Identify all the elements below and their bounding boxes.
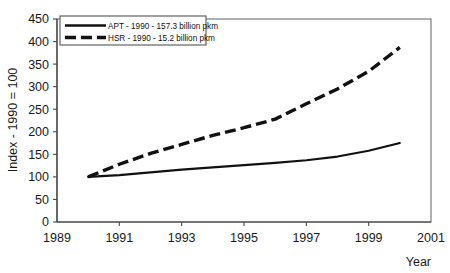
y-tick-label: 450	[28, 12, 49, 26]
y-tick-label: 200	[28, 125, 49, 139]
y-tick-label: 100	[28, 170, 49, 184]
x-tick-label: 1989	[43, 231, 71, 245]
legend-label-apt: APT - 1990 - 157.3 billion pkm	[108, 22, 218, 31]
y-tick-label: 400	[28, 35, 49, 49]
x-tick-label: 1993	[168, 231, 196, 245]
x-tick-label: 1995	[230, 231, 258, 245]
y-tick-label: 250	[28, 103, 49, 117]
legend: APT - 1990 - 157.3 billion pkm HSR - 199…	[60, 16, 218, 45]
chart-container: 050100150200250300350400450 198919911993…	[0, 0, 450, 273]
x-tick-label: 1999	[355, 231, 383, 245]
x-axis-title: Year	[406, 255, 431, 269]
y-tick-label: 150	[28, 148, 49, 162]
x-tick-label: 2001	[417, 231, 445, 245]
y-tick-label: 300	[28, 80, 49, 94]
x-tick-label: 1991	[105, 231, 133, 245]
line-chart: 050100150200250300350400450 198919911993…	[0, 0, 450, 273]
y-tick-label: 50	[35, 193, 49, 207]
x-tick-label: 1997	[292, 231, 320, 245]
y-tick-label: 0	[42, 215, 49, 229]
y-axis-title: Index - 1990 = 100	[6, 68, 20, 173]
y-tick-label: 350	[28, 58, 49, 72]
legend-label-hsr: HSR - 1990 - 15.2 billion pkm	[108, 34, 215, 43]
